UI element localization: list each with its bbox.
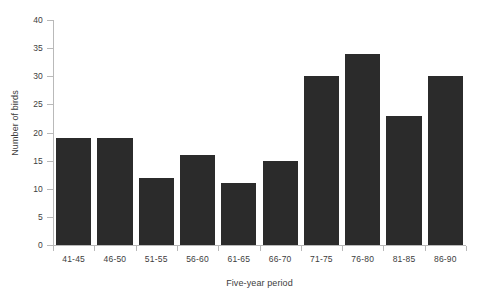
y-tick-label: 10 bbox=[0, 184, 43, 194]
x-tick-mark bbox=[177, 246, 178, 251]
y-tick-label: 20 bbox=[0, 128, 43, 138]
x-tick-mark bbox=[53, 246, 54, 251]
x-tick-mark bbox=[301, 246, 302, 251]
bar bbox=[428, 76, 463, 245]
y-tick-label: 30 bbox=[0, 71, 43, 81]
x-tick-label: 56-60 bbox=[177, 254, 218, 264]
y-tick-label: 15 bbox=[0, 156, 43, 166]
x-axis-title: Five-year period bbox=[53, 278, 466, 288]
bar bbox=[139, 178, 174, 246]
x-tick-mark bbox=[218, 246, 219, 251]
y-axis-title: Number of birds bbox=[4, 0, 26, 245]
bar bbox=[386, 116, 421, 245]
y-tick-mark bbox=[47, 161, 53, 162]
x-tick-label: 66-70 bbox=[260, 254, 301, 264]
bar bbox=[304, 76, 339, 245]
y-tick-mark bbox=[47, 133, 53, 134]
x-tick-mark bbox=[136, 246, 137, 251]
x-tick-label: 81-85 bbox=[383, 254, 424, 264]
y-tick-mark bbox=[47, 189, 53, 190]
bar-chart: Number of birds 0510152025303540 41-4546… bbox=[0, 0, 486, 302]
x-tick-mark bbox=[466, 246, 467, 251]
y-tick-label: 40 bbox=[0, 15, 43, 25]
x-tick-label: 71-75 bbox=[301, 254, 342, 264]
y-tick-mark bbox=[47, 217, 53, 218]
y-tick-mark bbox=[47, 76, 53, 77]
x-tick-mark bbox=[383, 246, 384, 251]
bar bbox=[180, 155, 215, 245]
y-tick-label: 35 bbox=[0, 43, 43, 53]
y-axis-line bbox=[53, 20, 54, 246]
x-tick-mark bbox=[260, 246, 261, 251]
y-tick-label: 0 bbox=[0, 240, 43, 250]
x-tick-label: 51-55 bbox=[136, 254, 177, 264]
y-tick-label: 5 bbox=[0, 212, 43, 222]
bar bbox=[345, 54, 380, 245]
y-tick-mark bbox=[47, 20, 53, 21]
y-tick-label: 25 bbox=[0, 99, 43, 109]
x-tick-mark bbox=[94, 246, 95, 251]
y-tick-mark bbox=[47, 104, 53, 105]
x-tick-label: 76-80 bbox=[342, 254, 383, 264]
x-tick-label: 86-90 bbox=[425, 254, 466, 264]
bar bbox=[56, 138, 91, 245]
y-tick-mark bbox=[47, 48, 53, 49]
x-tick-label: 61-65 bbox=[218, 254, 259, 264]
bar bbox=[263, 161, 298, 245]
x-tick-label: 46-50 bbox=[94, 254, 135, 264]
bar bbox=[97, 138, 132, 245]
bar bbox=[221, 183, 256, 245]
x-tick-mark bbox=[425, 246, 426, 251]
x-tick-label: 41-45 bbox=[53, 254, 94, 264]
x-tick-mark bbox=[342, 246, 343, 251]
